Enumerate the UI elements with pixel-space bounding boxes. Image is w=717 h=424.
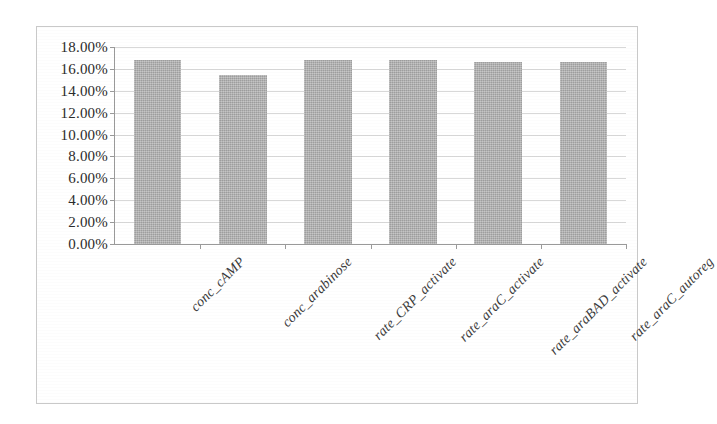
bar[interactable] [560,62,608,244]
y-axis-tick-label: 14.00% [61,82,108,99]
y-axis-tick-label: 8.00% [68,148,108,165]
x-axis-tick-mark [626,244,627,249]
y-axis-tick-label: 2.00% [68,214,108,231]
bar-slot [541,47,626,244]
y-axis-tick-label: 0.00% [68,236,108,253]
bar[interactable] [134,60,182,244]
bar-slot [456,47,541,244]
x-axis-category-label: rate_CRP_activate [370,254,460,344]
y-axis-tick-label: 6.00% [68,170,108,187]
bar-slot [285,47,370,244]
y-axis-tick-label: 10.00% [61,126,108,143]
x-axis-category-label: conc_arabinose [279,254,356,331]
chart-frame: 0.00%2.00%4.00%6.00%8.00%10.00%12.00%14.… [36,26,638,404]
bar-group [115,47,626,244]
bar[interactable] [389,60,437,244]
bar-slot [115,47,200,244]
y-axis-tick-label: 18.00% [61,39,108,56]
y-axis-tick-label: 12.00% [61,104,108,121]
bar[interactable] [219,75,267,244]
x-axis-category-label: conc_cAMP [187,254,248,315]
bar[interactable] [474,62,522,244]
bar[interactable] [304,60,352,244]
y-axis-tick-label: 16.00% [61,60,108,77]
x-axis-category-label: rate_araC_activate [456,254,547,345]
y-axis-tick-label: 4.00% [68,192,108,209]
bar-slot [200,47,285,244]
plot-area: 0.00%2.00%4.00%6.00%8.00%10.00%12.00%14.… [114,47,626,244]
x-axis-label-group: conc_cAMPconc_arabinoserate_CRP_activate… [114,244,626,384]
bar-slot [371,47,456,244]
